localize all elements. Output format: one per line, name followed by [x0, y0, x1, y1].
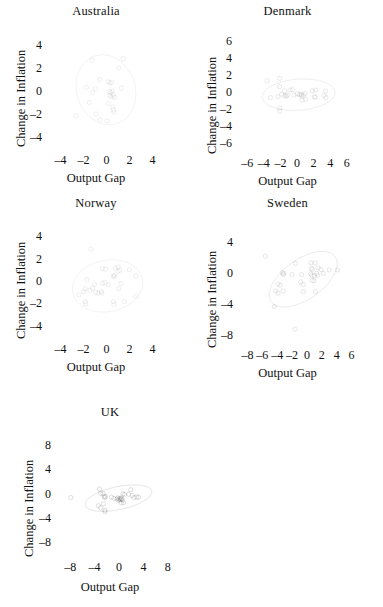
- plot-area-uk: [58, 434, 180, 555]
- data-point-marker: [112, 110, 116, 114]
- data-point-marker: [109, 91, 113, 95]
- data-point-marker: [112, 496, 116, 500]
- data-point-marker: [99, 491, 103, 495]
- data-point-marker: [281, 289, 285, 293]
- y-tick-label: 4: [208, 51, 232, 66]
- data-point-marker: [121, 501, 125, 505]
- data-point-marker: [276, 291, 280, 295]
- scatter-plot-norway: [49, 226, 164, 338]
- data-points: [69, 487, 141, 514]
- data-point-marker: [309, 266, 313, 270]
- data-point-marker: [91, 286, 95, 290]
- data-point-marker: [303, 91, 307, 95]
- data-point-marker: [284, 94, 288, 98]
- data-point-marker: [276, 282, 280, 286]
- data-point-marker: [263, 254, 267, 258]
- data-point-marker: [103, 495, 107, 499]
- plot-area-australia: [49, 34, 164, 149]
- data-point-marker: [115, 497, 119, 501]
- panel-sweden: Sweden Change in Inflation Output Gap –8…: [192, 196, 383, 388]
- data-point-marker: [109, 495, 113, 499]
- data-point-marker: [281, 272, 285, 276]
- data-point-marker: [313, 88, 317, 92]
- scatter-plot-uk: [58, 434, 180, 555]
- y-tick-label: 0: [208, 85, 232, 100]
- data-point-marker: [301, 290, 305, 294]
- data-point-marker: [89, 247, 93, 251]
- data-point-marker: [84, 302, 88, 306]
- panel-australia: Australia Change in Inflation Output Gap…: [0, 4, 192, 194]
- y-tick-label: 4: [18, 229, 42, 244]
- data-point-marker: [91, 91, 95, 95]
- data-point-marker: [112, 273, 116, 277]
- data-point-marker: [304, 97, 308, 101]
- y-tick-label: 8: [27, 438, 51, 453]
- data-point-marker: [293, 261, 297, 265]
- data-point-marker: [272, 304, 276, 308]
- y-tick-label: –4: [18, 130, 42, 145]
- y-tick-label: 0: [18, 84, 42, 99]
- data-point-marker: [100, 281, 104, 285]
- data-point-marker: [274, 289, 278, 293]
- data-point-marker: [335, 268, 339, 272]
- data-point-marker: [122, 299, 126, 303]
- panel-title-sweden: Sweden: [192, 196, 383, 211]
- confidence-ellipse: [67, 254, 148, 319]
- x-tick-label: 4: [139, 153, 167, 168]
- data-point-marker: [128, 488, 132, 492]
- data-point-marker: [300, 98, 304, 102]
- data-point-marker: [97, 77, 101, 81]
- data-point-marker: [309, 272, 313, 276]
- x-axis-label-australia: Output Gap: [0, 171, 192, 186]
- data-point-marker: [121, 57, 125, 61]
- scatter-plot-denmark: [239, 34, 355, 152]
- data-point-marker: [285, 93, 289, 97]
- data-point-marker: [299, 94, 303, 98]
- data-point-marker: [110, 89, 114, 93]
- data-point-marker: [298, 280, 302, 284]
- data-point-marker: [112, 302, 116, 306]
- data-point-marker: [119, 86, 123, 90]
- confidence-ellipse: [261, 77, 336, 113]
- data-point-marker: [300, 272, 304, 276]
- data-point-marker: [106, 101, 110, 105]
- data-point-marker: [127, 268, 131, 272]
- y-tick-label: 4: [18, 38, 42, 53]
- data-points: [77, 247, 138, 307]
- data-point-marker: [277, 85, 281, 89]
- data-point-marker: [83, 299, 87, 303]
- data-point-marker: [103, 494, 107, 498]
- y-tick-label: –4: [18, 319, 42, 334]
- data-point-marker: [97, 487, 101, 491]
- data-point-marker: [119, 501, 123, 505]
- data-point-marker: [111, 93, 115, 97]
- data-point-marker: [111, 274, 115, 278]
- data-point-marker: [277, 106, 281, 110]
- data-point-marker: [313, 261, 317, 265]
- data-point-marker: [316, 273, 320, 277]
- data-point-marker: [116, 265, 120, 269]
- y-tick-label: 4: [209, 235, 233, 250]
- data-point-marker: [312, 95, 316, 99]
- data-point-marker: [103, 280, 107, 284]
- data-point-marker: [118, 268, 122, 272]
- y-tick-label: –2: [208, 102, 232, 117]
- data-point-marker: [98, 118, 102, 122]
- y-tick-label: –2: [18, 107, 42, 122]
- data-point-marker: [282, 89, 286, 93]
- data-point-marker: [74, 114, 78, 118]
- data-point-marker: [321, 271, 325, 275]
- data-point-marker: [100, 266, 104, 270]
- data-point-marker: [293, 327, 297, 331]
- y-tick-label: –4: [208, 119, 232, 134]
- data-point-marker: [110, 95, 114, 99]
- data-point-marker: [122, 492, 126, 496]
- data-point-marker: [134, 274, 138, 278]
- data-point-marker: [268, 95, 272, 99]
- data-point-marker: [84, 85, 88, 89]
- y-tick-label: –6: [208, 136, 232, 151]
- x-tick-label: 6: [338, 348, 366, 363]
- confidence-ellipse: [260, 240, 346, 318]
- x-axis-label-norway: Output Gap: [0, 360, 192, 375]
- x-tick-label: 8: [154, 560, 182, 575]
